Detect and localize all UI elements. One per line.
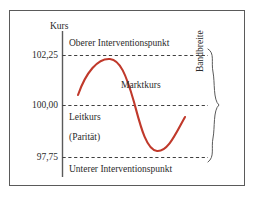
y-tick-label-upper: 102,25	[20, 51, 58, 61]
figure-canvas: Kurs Oberer Interventionspunkt Unterer I…	[0, 0, 255, 199]
y-tick-label-lower: 97,75	[20, 153, 58, 163]
upper-intervention-point-label: Oberer Interventionspunkt	[69, 39, 170, 49]
y-tick-label-center: 100,00	[20, 101, 58, 111]
market-rate-curve-label: Marktkurs	[121, 81, 161, 91]
bandwidth-label: Bandbreite	[196, 30, 206, 72]
central-rate-label: Leitkurs	[69, 113, 101, 123]
bandwidth-brace	[208, 49, 219, 162]
lower-intervention-point-label: Unterer Interventionspunkt	[69, 165, 172, 175]
y-axis-title: Kurs	[50, 22, 68, 32]
parity-label: (Parität)	[69, 133, 100, 143]
